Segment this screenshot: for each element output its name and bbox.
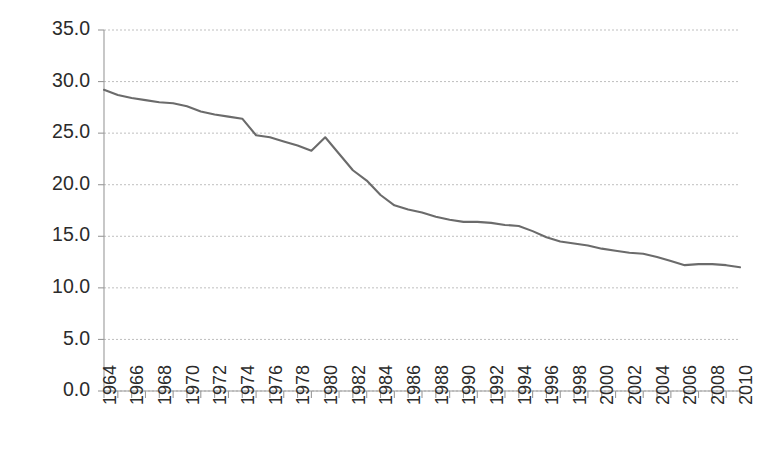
x-axis-tick-label: 1998 [570, 365, 590, 405]
x-axis-tick-label: 2006 [680, 365, 700, 405]
y-axis-tick-label: 35.0 [52, 17, 90, 39]
y-axis-tick-labels: 0.05.010.015.020.025.030.035.0 [52, 17, 90, 400]
y-axis-tick-label: 5.0 [63, 327, 90, 349]
x-axis-tick-label: 2000 [597, 365, 617, 405]
x-axis-tick-label: 2010 [736, 365, 756, 405]
data-line [104, 90, 740, 267]
gridlines [104, 30, 740, 391]
x-axis-tick-label: 1996 [542, 365, 562, 405]
y-axis-tick-label: 20.0 [52, 172, 90, 194]
x-axis-tick-label: 1978 [293, 365, 313, 405]
y-axis-tick-label: 25.0 [52, 120, 90, 142]
x-axis-tick-label: 1968 [155, 365, 175, 405]
y-axis [98, 30, 104, 391]
y-axis-tick-label: 10.0 [52, 275, 90, 297]
x-axis-tick-label: 1970 [183, 365, 203, 405]
x-axis-tick-label: 1964 [100, 365, 120, 405]
x-axis-tick-label: 2004 [653, 365, 673, 405]
x-axis-tick-label: 1986 [404, 365, 424, 405]
x-axis-tick-label: 2008 [708, 365, 728, 405]
x-axis-tick-label: 1992 [487, 365, 507, 405]
x-axis-tick-label: 1980 [321, 365, 341, 405]
y-axis-tick-label: 15.0 [52, 223, 90, 245]
chart-canvas: 0.05.010.015.020.025.030.035.0 196419661… [0, 0, 775, 472]
x-axis-tick-label: 1976 [266, 365, 286, 405]
x-axis-tick-label: 1988 [432, 365, 452, 405]
x-axis-tick-label: 1982 [349, 365, 369, 405]
x-axis-tick-label: 1984 [376, 365, 396, 405]
x-axis-tick-label: 1994 [515, 365, 535, 405]
x-axis-tick-label: 1972 [210, 365, 230, 405]
x-axis-tick-labels: 1964196619681970197219741976197819801982… [100, 365, 756, 405]
y-axis-tick-label: 0.0 [63, 378, 90, 400]
data-series [104, 90, 740, 267]
x-axis-tick-label: 2002 [625, 365, 645, 405]
y-axis-tick-label: 30.0 [52, 69, 90, 91]
x-axis-tick-label: 1974 [238, 365, 258, 405]
line-chart: 0.05.010.015.020.025.030.035.0 196419661… [0, 0, 775, 472]
x-axis-tick-label: 1966 [127, 365, 147, 405]
x-axis-tick-label: 1990 [459, 365, 479, 405]
